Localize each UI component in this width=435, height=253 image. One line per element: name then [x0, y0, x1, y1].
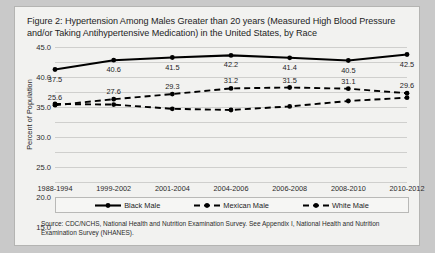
data-point-label: 41.4: [282, 62, 296, 71]
data-point: [53, 67, 58, 72]
data-point: [170, 55, 175, 60]
data-point-label: 40.5: [341, 65, 355, 74]
legend-marker-icon: [194, 201, 220, 210]
data-point: [111, 97, 116, 102]
data-point-label: 40.6: [106, 65, 120, 74]
x-axis-tick-label: 2010-2012: [390, 184, 425, 193]
legend-item-label: Black Male: [124, 201, 160, 210]
x-axis-tick-label: 1999-2002: [96, 184, 131, 193]
data-point: [287, 104, 292, 109]
data-point: [170, 106, 175, 111]
legend-item-label: Mexican Male: [223, 201, 269, 210]
plot-area: 45.040.035.030.025.020.015.010.05.00.0 3…: [55, 47, 407, 182]
y-axis-label: Percent of Population: [23, 47, 35, 182]
data-point: [287, 85, 292, 90]
data-point: [405, 95, 410, 100]
data-point: [170, 92, 175, 97]
data-point-label: 27.6: [106, 87, 120, 96]
figure-container: Figure 2: Hypertension Among Males Great…: [14, 6, 420, 246]
x-axis-tick-label: 2008-2010: [331, 184, 366, 193]
data-point-label: 31.5: [282, 75, 296, 84]
data-point-label: 31.2: [224, 76, 238, 85]
x-axis-tick-label: 2001-2004: [155, 184, 190, 193]
data-point: [287, 55, 292, 60]
data-point-label: 31.1: [341, 76, 355, 85]
data-point-label: 29.3: [165, 82, 179, 91]
data-point: [53, 102, 58, 107]
legend-item-black-male[interactable]: Black Male: [95, 201, 160, 210]
legend-marker-icon: [303, 201, 329, 210]
data-point: [346, 86, 351, 91]
legend-item-white-male[interactable]: White Male: [303, 201, 369, 210]
data-point: [346, 58, 351, 63]
data-point-label: 41.5: [165, 62, 179, 71]
data-point: [111, 102, 116, 107]
data-point-label: 29.6: [400, 81, 414, 90]
y-axis-tick-label: 45.0: [36, 43, 51, 52]
data-point-label: 42.2: [224, 60, 238, 69]
data-point-label: 37.5: [48, 74, 62, 83]
chart-legend: Black MaleMexican MaleWhite Male: [55, 197, 409, 213]
y-axis-label-text: Percent of Population: [25, 79, 34, 150]
data-point: [229, 53, 234, 58]
legend-marker-icon: [95, 201, 121, 210]
x-axis-tick-label: 2006-2008: [272, 184, 307, 193]
gridline: 0.0: [55, 182, 407, 183]
data-point-label: 25.6: [48, 93, 62, 102]
x-axis-ticks: 1988-19941999-20022001-20042004-20062006…: [55, 184, 407, 196]
data-point: [405, 91, 410, 96]
data-point: [346, 99, 351, 104]
y-axis-tick-label: 25.0: [36, 163, 51, 172]
y-axis-tick-label: 20.0: [36, 193, 51, 202]
legend-item-label: White Male: [332, 201, 369, 210]
x-axis-tick-label: 2004-2006: [214, 184, 249, 193]
data-point-label: 42.5: [400, 59, 414, 68]
data-point: [229, 86, 234, 91]
y-axis-tick-label: 35.0: [36, 103, 51, 112]
legend-item-mexican-male[interactable]: Mexican Male: [194, 201, 269, 210]
data-point: [111, 58, 116, 63]
source-note: Source: CDC/NCHS, National Health and Nu…: [41, 219, 409, 237]
data-point: [405, 52, 410, 57]
x-axis-tick-label: 1988-1994: [38, 184, 73, 193]
y-axis-tick-label: 30.0: [36, 133, 51, 142]
data-point: [229, 108, 234, 113]
figure-title: Figure 2: Hypertension Among Males Great…: [27, 15, 409, 40]
